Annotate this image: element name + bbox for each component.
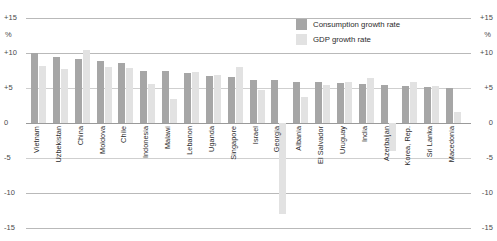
x-axis-label: Chile bbox=[120, 126, 127, 143]
bar-consumption bbox=[381, 85, 388, 123]
x-axis-label: Uruguay bbox=[339, 126, 346, 154]
bar-group: Uganda bbox=[205, 0, 227, 241]
x-axis-label: Uganda bbox=[208, 126, 215, 152]
bar-consumption bbox=[97, 61, 104, 123]
bar-consumption bbox=[184, 73, 191, 123]
bar-consumption bbox=[424, 87, 431, 123]
x-axis-label: Sri Lanka bbox=[426, 126, 433, 157]
bar-consumption bbox=[359, 84, 366, 123]
x-axis-label: Azerbaijan bbox=[383, 126, 390, 161]
x-axis-label: Vietnam bbox=[33, 126, 40, 153]
y-tick-left-minus10: -10 bbox=[4, 189, 15, 197]
y-tick-left-plus10: +10 bbox=[4, 49, 17, 57]
legend-swatch-gdp bbox=[296, 34, 307, 45]
bar-gdp bbox=[410, 82, 417, 123]
bar-group: Korea, Rep. bbox=[401, 0, 423, 241]
bar-gdp bbox=[345, 82, 352, 123]
x-axis-label: Israel bbox=[252, 126, 259, 144]
bar-consumption bbox=[402, 86, 409, 123]
y-tick-right-plus15: +15 bbox=[480, 14, 493, 22]
bar-gdp bbox=[192, 72, 199, 123]
bar-gdp bbox=[214, 75, 221, 123]
y-tick-right-minus10: -10 bbox=[482, 189, 493, 197]
bar-group: Israel bbox=[249, 0, 271, 241]
bar-consumption bbox=[271, 80, 278, 123]
y-tick-right-minus5: -5 bbox=[486, 154, 493, 162]
y-tick-left-minus5: -5 bbox=[4, 154, 11, 162]
bar-group: Sri Lanka bbox=[423, 0, 445, 241]
bar-group: Chile bbox=[117, 0, 139, 241]
bar-consumption bbox=[53, 57, 60, 123]
x-axis-label: India bbox=[361, 126, 368, 142]
bar-gdp bbox=[126, 68, 133, 123]
bar-gdp bbox=[61, 69, 68, 123]
plot-area: VietnamUzbekistanChinaMoldovaChileIndone… bbox=[30, 0, 467, 241]
x-axis-label: Uzbekistan bbox=[55, 126, 62, 163]
bar-consumption bbox=[293, 82, 300, 123]
bar-gdp bbox=[39, 66, 46, 123]
y-axis-unit-left: % bbox=[5, 31, 12, 39]
legend-item-gdp: GDP growth rate bbox=[296, 34, 400, 45]
chart-container: +15+15+10+10+5+500-5-5-10-10-15-15 % % V… bbox=[0, 0, 497, 241]
y-tick-left-0: 0 bbox=[4, 119, 8, 127]
x-axis-label: Lebanon bbox=[186, 126, 193, 155]
bar-gdp bbox=[367, 78, 374, 123]
bar-consumption bbox=[140, 71, 147, 124]
bar-consumption bbox=[31, 53, 38, 123]
y-tick-right-0: 0 bbox=[489, 119, 493, 127]
chart-legend: Consumption growth rate GDP growth rate bbox=[296, 19, 400, 49]
bar-group: Malawi bbox=[161, 0, 183, 241]
bar-group: Georgia bbox=[270, 0, 292, 241]
y-tick-right-plus10: +10 bbox=[480, 49, 493, 57]
bar-consumption bbox=[162, 71, 169, 123]
y-tick-right-plus5: +5 bbox=[484, 84, 493, 92]
bar-group: Moldova bbox=[96, 0, 118, 241]
bar-consumption bbox=[250, 80, 257, 123]
bar-group: Singapore bbox=[227, 0, 249, 241]
bar-gdp bbox=[323, 85, 330, 124]
legend-item-consumption: Consumption growth rate bbox=[296, 19, 400, 30]
y-tick-left-plus5: +5 bbox=[4, 84, 13, 92]
bar-gdp bbox=[258, 90, 265, 123]
x-axis-label: Singapore bbox=[230, 126, 237, 160]
x-axis-label: China bbox=[77, 126, 84, 145]
bar-consumption bbox=[75, 59, 82, 123]
bar-group: Lebanon bbox=[183, 0, 205, 241]
bar-group: Uzbekistan bbox=[52, 0, 74, 241]
legend-swatch-consumption bbox=[296, 19, 307, 30]
bar-group: China bbox=[74, 0, 96, 241]
x-axis-label: Korea, Rep. bbox=[404, 126, 411, 166]
bar-group: Indonesia bbox=[139, 0, 161, 241]
bar-consumption bbox=[118, 63, 125, 123]
bar-gdp bbox=[236, 67, 243, 123]
bar-group: Vietnam bbox=[30, 0, 52, 241]
bar-consumption bbox=[315, 82, 322, 123]
x-axis-label: Malawi bbox=[164, 126, 171, 149]
bar-gdp bbox=[301, 97, 308, 123]
bar-gdp bbox=[105, 67, 112, 123]
legend-label-consumption: Consumption growth rate bbox=[313, 21, 400, 29]
bar-consumption bbox=[228, 77, 235, 123]
y-tick-left-minus15: -15 bbox=[4, 224, 15, 232]
x-axis-label: Macedonia bbox=[448, 126, 455, 162]
bar-consumption bbox=[206, 76, 213, 123]
bar-consumption bbox=[446, 88, 453, 123]
bar-gdp bbox=[170, 99, 177, 124]
x-axis-label: Georgia bbox=[273, 126, 280, 152]
x-axis-label: El Salvador bbox=[317, 126, 324, 164]
legend-label-gdp: GDP growth rate bbox=[313, 36, 371, 44]
bar-gdp bbox=[83, 50, 90, 124]
bar-consumption bbox=[337, 83, 344, 123]
bar-gdp bbox=[432, 86, 439, 123]
y-tick-left-plus15: +15 bbox=[4, 14, 17, 22]
y-tick-right-minus15: -15 bbox=[482, 224, 493, 232]
x-axis-label: Albania bbox=[295, 126, 302, 151]
x-axis-label: Indonesia bbox=[142, 126, 149, 158]
bar-gdp bbox=[454, 112, 461, 123]
x-axis-label: Moldova bbox=[99, 126, 106, 154]
y-axis-unit-right: % bbox=[484, 31, 491, 39]
bar-group: Macedonia bbox=[445, 0, 467, 241]
bar-gdp bbox=[148, 84, 155, 123]
